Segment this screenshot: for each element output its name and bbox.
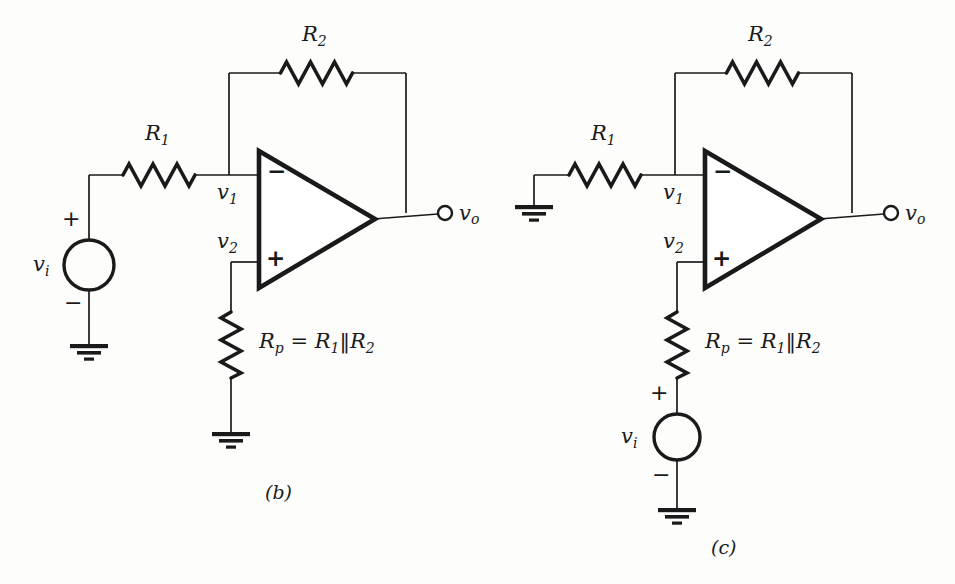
label-v1-c: v1 <box>663 182 684 203</box>
ground-source-c <box>658 508 696 525</box>
source-minus-sign-c: − <box>652 464 670 486</box>
vplus-branch-c <box>667 262 704 414</box>
label-vo-b: vo <box>459 203 479 224</box>
resistor-rp-c <box>667 312 687 378</box>
label-vi-c: vi <box>621 426 637 447</box>
opamp-noninverting-input-sign-c: + <box>712 247 731 270</box>
panel-caption-c: (c) <box>711 538 736 557</box>
resistor-r2-c <box>727 62 799 84</box>
label-rp-equation-b: Rp = R1‖R2 <box>259 331 375 352</box>
output-terminal-b <box>438 206 452 220</box>
vplus-branch-b <box>221 262 258 432</box>
ground-source-b <box>70 344 108 361</box>
label-v2-b: v2 <box>217 231 238 252</box>
panel-caption-b: (b) <box>265 483 292 502</box>
label-r1-b: R1 <box>145 123 170 144</box>
output-branch-c <box>819 206 898 220</box>
label-vi-b: vi <box>33 254 49 275</box>
source-minus-sign-b: − <box>64 292 82 314</box>
voltage-source-vi-c <box>654 414 700 508</box>
circuit-panel-c <box>515 62 898 525</box>
label-r2-c: R2 <box>748 24 773 45</box>
resistor-r1-c <box>569 164 641 186</box>
source-plus-sign-c: + <box>650 382 668 404</box>
circuit-panel-b <box>64 62 452 449</box>
label-r1-c: R1 <box>591 123 616 144</box>
output-terminal-c <box>884 206 898 220</box>
ground-input-c <box>515 205 553 222</box>
output-branch-b <box>373 206 452 220</box>
opamp-noninverting-input-sign-b: + <box>266 247 285 270</box>
ground-rp-b <box>212 432 250 449</box>
schematic-svg <box>0 0 955 584</box>
label-vo-c: vo <box>905 203 925 224</box>
resistor-r2-b <box>281 62 353 84</box>
label-r2-b: R2 <box>302 24 327 45</box>
figure-canvas: R2 R1 v1 v2 vo vi Rp = R1‖R2 + − − + (b)… <box>0 0 955 584</box>
label-v1-b: v1 <box>217 182 238 203</box>
resistor-rp-b <box>221 312 241 378</box>
label-v2-c: v2 <box>663 231 684 252</box>
opamp-inverting-input-sign-c: − <box>713 160 732 183</box>
label-rp-equation-c: Rp = R1‖R2 <box>705 331 821 352</box>
opamp-inverting-input-sign-b: − <box>267 160 286 183</box>
resistor-r1-b <box>123 164 195 186</box>
source-plus-sign-b: + <box>62 208 80 230</box>
